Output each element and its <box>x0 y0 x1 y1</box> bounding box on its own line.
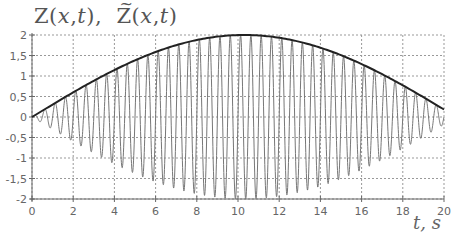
svg-text:1,5: 1,5 <box>10 50 28 63</box>
y-axis-ticks: 21,510,50-0,5-1-1,5-2 <box>6 29 35 206</box>
svg-text:6: 6 <box>152 205 159 218</box>
svg-text:-0,5: -0,5 <box>6 132 27 145</box>
svg-text:2: 2 <box>20 29 27 42</box>
svg-text:16: 16 <box>355 205 369 218</box>
svg-text:-2: -2 <box>16 193 27 206</box>
chart-plot: 21,510,50-0,5-1-1,5-2 02468101214161820 <box>0 0 457 237</box>
svg-text:-1: -1 <box>16 152 27 165</box>
svg-text:12: 12 <box>272 205 286 218</box>
svg-text:4: 4 <box>111 205 118 218</box>
svg-text:0: 0 <box>20 111 27 124</box>
svg-text:1: 1 <box>20 70 27 83</box>
svg-text:14: 14 <box>313 205 327 218</box>
svg-text:8: 8 <box>193 205 200 218</box>
svg-text:0: 0 <box>29 205 36 218</box>
svg-text:10: 10 <box>231 205 245 218</box>
svg-text:2: 2 <box>70 205 77 218</box>
svg-text:0,5: 0,5 <box>10 91 28 104</box>
svg-text:18: 18 <box>396 205 410 218</box>
svg-text:-1,5: -1,5 <box>6 173 27 186</box>
x-axis-label: t, s <box>413 212 441 233</box>
